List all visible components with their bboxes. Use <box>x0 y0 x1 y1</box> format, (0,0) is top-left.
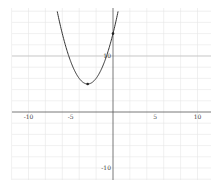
x-tick-label: 5 <box>153 113 157 120</box>
x-tick-label: 10 <box>194 113 202 120</box>
y-intercept-point <box>112 32 115 35</box>
x-tick-label: -5 <box>68 113 74 120</box>
vertex-point <box>86 83 89 86</box>
x-tick-label: -10 <box>24 113 34 120</box>
function-graph: -10-551010-10 <box>0 0 214 186</box>
tick-labels: -10-551010-10 <box>24 52 202 171</box>
y-tick-label: -10 <box>101 164 111 171</box>
